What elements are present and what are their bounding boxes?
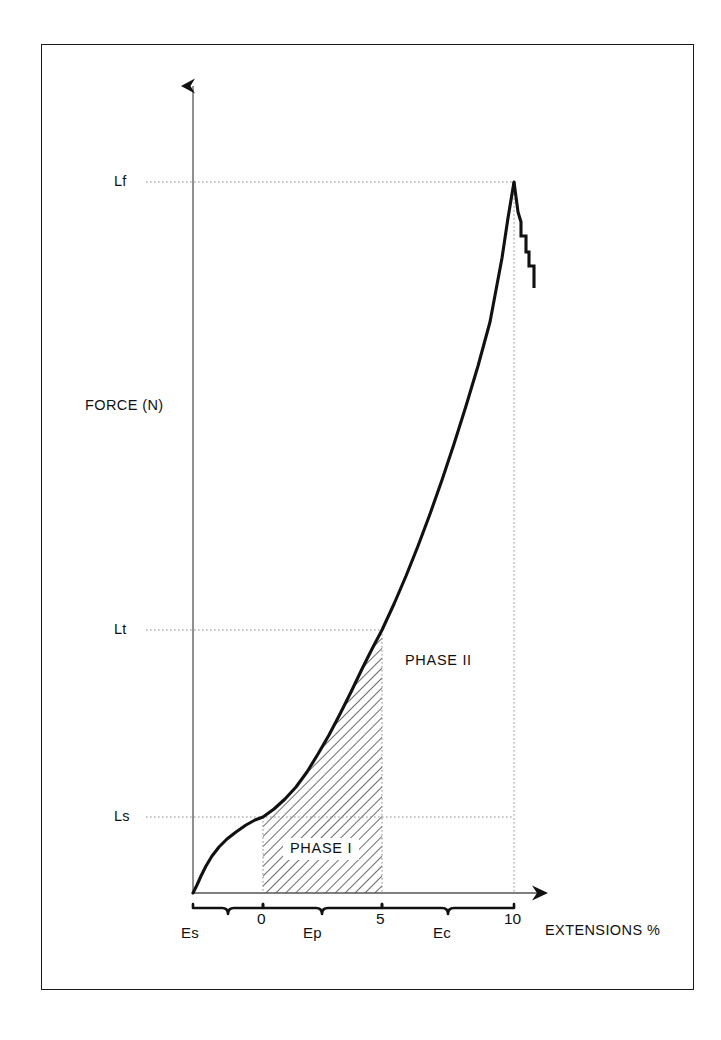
- figure-container: FORCE (N) EXTENSIONS % Lf Lt Ls 0 5 10 E…: [0, 0, 721, 1040]
- y-axis-label: FORCE (N): [85, 398, 164, 413]
- bracket-es: [193, 904, 263, 914]
- bracket-ep: [263, 904, 382, 914]
- x-tick-label-10: 10: [504, 911, 521, 927]
- force-level-label-lf: Lf: [114, 174, 127, 189]
- force-level-label-lt: Lt: [114, 622, 127, 637]
- extension-zone-label-es: Es: [181, 925, 199, 940]
- extension-zone-label-ec: Ec: [433, 925, 451, 940]
- phase-two-label: PHASE II: [405, 653, 472, 668]
- force-level-label-ls: Ls: [114, 809, 130, 824]
- extension-zone-label-ep: Ep: [303, 925, 322, 940]
- phase-one-label: PHASE I: [283, 838, 359, 860]
- rupture-step-curve: [514, 182, 534, 288]
- x-tick-label-5: 5: [376, 911, 385, 927]
- x-axis-label: EXTENSIONS %: [545, 923, 660, 938]
- bracket-ec: [382, 904, 514, 914]
- x-tick-label-0: 0: [257, 911, 266, 927]
- plot-canvas: [0, 0, 721, 1040]
